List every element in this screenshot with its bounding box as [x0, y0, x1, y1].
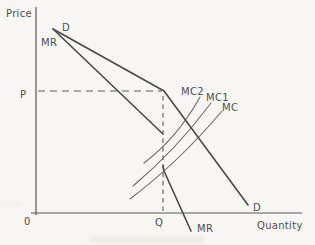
mr-curve-lower	[163, 166, 191, 231]
scan-artifact-edge	[0, 202, 22, 205]
mc2-label: MC2	[181, 86, 204, 97]
y-axis-label: Price	[6, 8, 32, 19]
demand-label-bottom: D	[253, 202, 261, 213]
kinked-demand-diagram: Price D MR P MC2 MC1 MC D Q MR 0 Quantit…	[0, 0, 315, 245]
mr-label-bottom: MR	[197, 223, 213, 234]
demand-curve	[53, 29, 248, 205]
mc-curve	[130, 111, 222, 199]
mc-label: MC	[222, 102, 238, 113]
mr-label-top: MR	[41, 37, 57, 48]
x-axis-label: Quantity	[257, 220, 303, 231]
mc2-curve	[144, 97, 200, 163]
price-level-label: P	[20, 89, 26, 100]
figure-canvas: Price D MR P MC2 MC1 MC D Q MR 0 Quantit…	[0, 0, 315, 245]
quantity-level-label: Q	[155, 217, 163, 228]
demand-label-top: D	[62, 22, 70, 33]
scan-artifact-caption	[88, 238, 204, 242]
origin-label: 0	[24, 216, 31, 227]
